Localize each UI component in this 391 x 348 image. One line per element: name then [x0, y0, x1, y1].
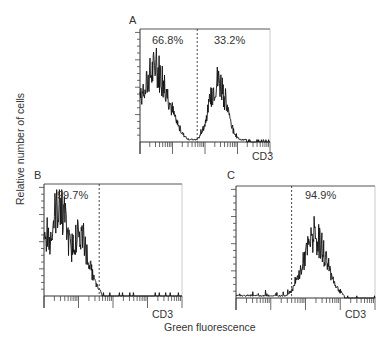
panel-b-x-label: CD3 [152, 308, 173, 320]
panel-c-y-axis [231, 186, 236, 310]
panel-b-y-axis [39, 184, 44, 308]
panel-a-histogram [140, 48, 270, 142]
panel-a-percent-right: 33.2% [214, 34, 245, 46]
panel-c: C 94.9% CD3 [227, 169, 375, 320]
panel-b-percent: 99.7% [57, 189, 88, 201]
panel-b-x-axis [44, 296, 182, 308]
panel-a-x-label: CD3 [252, 150, 273, 162]
x-axis-title: Green fluorescence [164, 321, 256, 333]
panel-a-percent-left: 66.8% [152, 34, 183, 46]
panel-c-percent: 94.9% [305, 189, 336, 201]
figure-canvas: Relative number of cells Green fluoresce… [0, 0, 391, 348]
panel-a-label: A [129, 14, 137, 26]
panel-c-x-label: CD3 [345, 308, 366, 320]
flow-cytometry-figure: Relative number of cells Green fluoresce… [0, 0, 391, 348]
panel-a: A 66.8% 33.2% CD3 [129, 14, 273, 162]
panel-c-label: C [227, 169, 235, 181]
y-axis-title: Relative number of cells [14, 93, 26, 205]
panel-b: B 99.7% CD3 [34, 169, 182, 320]
panel-a-y-axis [135, 29, 140, 154]
panel-b-label: B [34, 169, 41, 181]
panel-b-histogram [44, 190, 182, 296]
panel-a-x-axis [140, 142, 270, 154]
panel-c-histogram [236, 216, 375, 298]
